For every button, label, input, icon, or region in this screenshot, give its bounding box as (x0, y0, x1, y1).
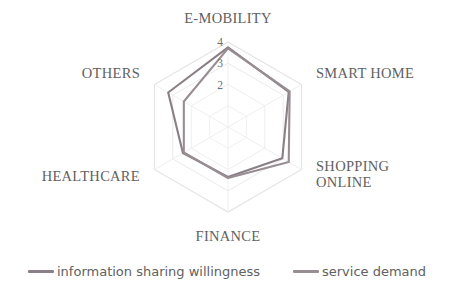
legend-label: information sharing willingness (57, 264, 260, 279)
axis-label-others: OTHERS (0, 65, 140, 81)
legend-item-service-demand[interactable]: service demand (293, 260, 426, 282)
legend-item-information-sharing-willingness[interactable]: information sharing willingness (28, 260, 260, 282)
radial-tick-2: 2 (208, 79, 232, 91)
legend-line-swatch-icon (293, 270, 319, 273)
radial-tick-3: 3 (208, 57, 232, 69)
axis-label-e-mobility: E-MOBILITY (0, 10, 455, 26)
radial-tick-4: 4 (208, 36, 232, 48)
chart-legend: information sharing willingness service … (0, 258, 455, 288)
legend-label: service demand (322, 264, 426, 279)
axis-label-healthcare: HEALTHCARE (0, 168, 140, 184)
legend-line-swatch-icon (28, 270, 54, 273)
radar-chart: E-MOBILITY SMART HOME SHOPPING ONLINE FI… (0, 0, 455, 302)
axis-label-smart-home: SMART HOME (316, 65, 414, 81)
axis-label-finance: FINANCE (0, 228, 455, 244)
axis-label-shopping-online: SHOPPING ONLINE (316, 158, 389, 190)
